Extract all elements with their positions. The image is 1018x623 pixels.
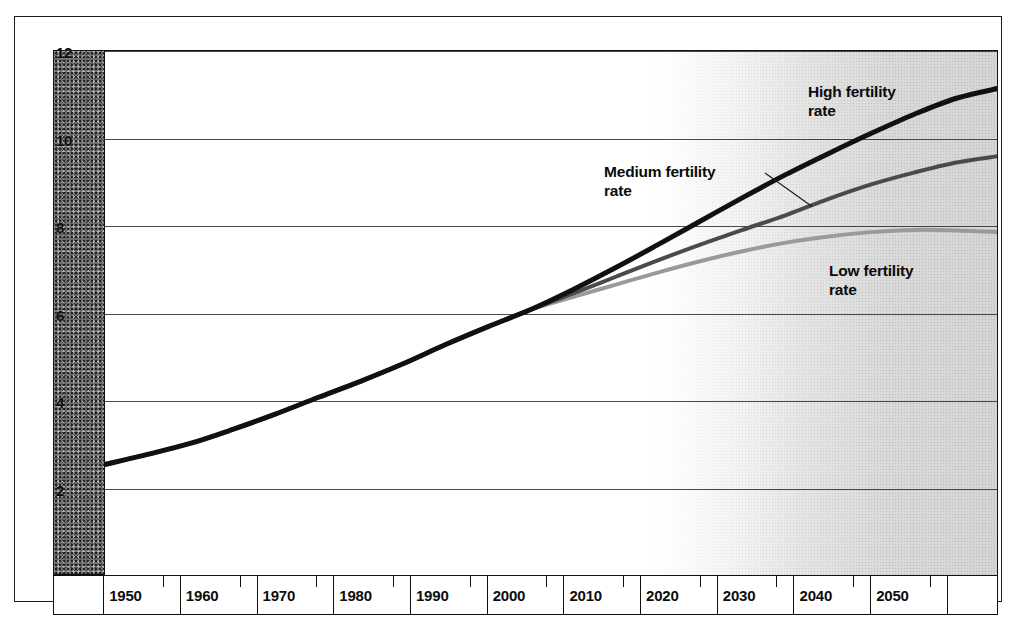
x-axis-tick-1960: 1960 <box>181 587 219 604</box>
y-axis-tick-8: 8 <box>56 220 64 235</box>
medium-fertility-label-line2: rate <box>604 182 715 201</box>
high-fertility-label-line2: rate <box>808 102 896 121</box>
x-axis: 1950196019701980199020002010202020302040… <box>53 575 998 615</box>
low-fertility-label-line2: rate <box>829 281 913 300</box>
x-axis-tick-1970: 1970 <box>258 587 296 604</box>
x-axis-cell-1950: 1950 <box>104 576 181 614</box>
x-axis-cell-1970: 1970 <box>258 576 335 614</box>
x-axis-tick-1950: 1950 <box>104 587 142 604</box>
chart-frame: 12108642 1950196019701980199020002010202… <box>14 16 1002 602</box>
series-curves <box>105 51 998 575</box>
x-axis-cell-1980: 1980 <box>334 576 411 614</box>
medium-fertility-label-line1: Medium fertility <box>604 163 715 182</box>
x-axis-spacer-cell <box>54 576 104 614</box>
x-axis-cell-2050: 2050 <box>871 576 948 614</box>
x-axis-tickmark-1960 <box>240 576 241 587</box>
y-axis-tick-12: 12 <box>56 45 72 60</box>
x-axis-tick-2050: 2050 <box>871 587 909 604</box>
medium-fertility-label: Medium fertility rate <box>604 163 715 201</box>
x-axis-tick-2010: 2010 <box>564 587 602 604</box>
y-axis-tick-2: 2 <box>56 483 64 498</box>
x-axis-tick-1990: 1990 <box>411 587 449 604</box>
x-axis-tick-2040: 2040 <box>794 587 832 604</box>
plot-area <box>104 50 998 575</box>
medium-label-leader-line <box>765 173 812 206</box>
x-axis-tickmark-1990 <box>470 576 471 587</box>
series-line-medium-fertility-rate <box>105 156 998 464</box>
x-axis-tickmark-2000 <box>546 576 547 587</box>
high-fertility-label-line1: High fertility <box>808 83 896 102</box>
x-axis-cell-2010: 2010 <box>564 576 641 614</box>
x-axis-tickmark-2020 <box>700 576 701 587</box>
x-axis-tick-2000: 2000 <box>488 587 526 604</box>
x-axis-tick-2020: 2020 <box>641 587 679 604</box>
x-axis-cell-2000: 2000 <box>488 576 565 614</box>
y-axis-tick-10: 10 <box>56 133 72 148</box>
x-axis-cell-2020: 2020 <box>641 576 718 614</box>
x-axis-tickmark-1970 <box>316 576 317 587</box>
high-fertility-label: High fertility rate <box>808 83 896 121</box>
x-axis-tick-2030: 2030 <box>718 587 756 604</box>
low-fertility-label: Low fertility rate <box>829 262 913 300</box>
x-axis-tickmark-2030 <box>776 576 777 587</box>
population-projection-chart: 12108642 1950196019701980199020002010202… <box>0 0 1018 623</box>
y-axis-tick-6: 6 <box>56 308 64 323</box>
x-axis-cell-1960: 1960 <box>181 576 258 614</box>
x-axis-tickmark-1980 <box>393 576 394 587</box>
x-axis-tickmark-2050 <box>930 576 931 587</box>
y-axis-band: 12108642 <box>53 50 105 575</box>
y-axis-tick-4: 4 <box>56 395 64 410</box>
x-axis-tickmark-2010 <box>623 576 624 587</box>
x-axis-tick-1980: 1980 <box>334 587 372 604</box>
x-axis-tickmark-2040 <box>853 576 854 587</box>
x-axis-cell-2030: 2030 <box>718 576 795 614</box>
x-axis-tickmark-1950 <box>163 576 164 587</box>
x-axis-tail-cell <box>948 576 997 614</box>
x-axis-cell-2040: 2040 <box>794 576 871 614</box>
x-axis-cell-1990: 1990 <box>411 576 488 614</box>
low-fertility-label-line1: Low fertility <box>829 262 913 281</box>
